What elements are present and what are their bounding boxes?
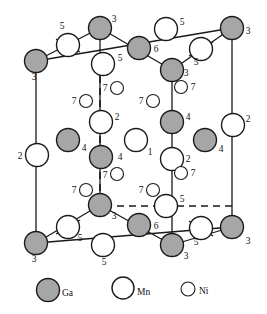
label-ni-7-e: 7 (103, 170, 108, 180)
atom-ga-4-rightin (161, 111, 184, 134)
label-mn-top-edge-5-left: 5 (60, 21, 65, 31)
label-ga-top-face-6: 6 (154, 44, 159, 54)
legend-ni-label: Ni (199, 286, 209, 296)
label-ni-7-c: 7 (139, 96, 144, 106)
label-mn-top-edge-5-right: 5 (194, 57, 199, 67)
label-mn-bot-5-right: 5 (194, 237, 199, 247)
atom-ga-4-center (90, 146, 113, 169)
atom-ni-7-f (80, 184, 93, 197)
legend-mn-swatch (112, 277, 134, 299)
label-ga-bot-front-right: 3 (184, 251, 189, 261)
atom-ga-bot-back-left (25, 232, 48, 255)
atom-ga-top-back-right (221, 17, 244, 40)
atom-ga-top-face-6 (128, 37, 151, 60)
atom-ga-top-front-right (161, 59, 184, 82)
atom-mn-2-left (26, 144, 49, 167)
atom-mn-1-center (125, 129, 148, 152)
atom-ga-bot-front-right (161, 234, 184, 257)
atom-ga-bot-front-left (89, 194, 112, 217)
atom-mn-bot-5-front (92, 234, 115, 257)
legend-ga-label: Ga (62, 288, 74, 298)
label-ni-7-b: 7 (72, 96, 77, 106)
unit-cell-svg: 33336555577772222444417777333365555 GaMn… (0, 0, 267, 314)
label-mn-2-center: 2 (115, 112, 120, 122)
legend-ni-swatch (181, 282, 195, 296)
label-ni-7-a: 7 (103, 83, 108, 93)
atom-ga-bot-back-right (221, 216, 244, 239)
atom-mn-2-center (90, 111, 113, 134)
atom-ga-bot-face-6 (128, 214, 151, 237)
crystal-structure-figure: 33336555577772222444417777333365555 GaMn… (0, 0, 267, 314)
label-ga-top-front-left: 3 (112, 14, 117, 24)
atom-ni-7-d (175, 81, 188, 94)
label-ga-4-left: 4 (82, 143, 87, 153)
atom-ga-top-front-left (89, 17, 112, 40)
label-mn-2-front: 2 (186, 154, 191, 164)
label-ga-top-front-right: 3 (184, 68, 189, 78)
atom-ni-7-h (175, 167, 188, 180)
label-ga-4-center: 4 (118, 152, 123, 162)
atom-mn-2-right (222, 114, 245, 137)
label-ga-bot-back-left: 3 (32, 254, 37, 264)
atom-ga-4-left (57, 129, 80, 152)
atom-ga-top-back-left (25, 50, 48, 73)
legend-mn-label: Mn (137, 287, 150, 297)
label-mn-2-left: 2 (18, 151, 23, 161)
label-ga-4-rightin: 4 (186, 112, 191, 122)
atom-ni-7-c (147, 95, 160, 108)
label-mn-top-edge-5-back: 5 (180, 17, 185, 27)
label-ga-4-right: 4 (219, 144, 224, 154)
label-mn-top-edge-5-mid: 5 (118, 53, 123, 63)
label-mn-bot-5-mid: 5 (180, 194, 185, 204)
label-ga-top-back-right: 3 (246, 26, 251, 36)
label-ga-bot-face-6: 6 (154, 221, 159, 231)
label-mn-1-center: 1 (148, 147, 153, 157)
label-ga-top-back-left: 3 (32, 72, 37, 82)
label-ni-7-f: 7 (72, 185, 77, 195)
atom-mn-top-edge-5-back (155, 18, 178, 41)
label-ni-7-h: 7 (191, 168, 196, 178)
atom-mn-top-edge-5-mid (92, 53, 115, 76)
label-ni-7-d: 7 (191, 82, 196, 92)
atom-ga-4-right (194, 129, 217, 152)
atom-mn-bot-5-left (57, 216, 80, 239)
atom-ni-7-g (147, 184, 160, 197)
atom-ni-7-e (111, 168, 124, 181)
label-mn-bot-5-left: 5 (78, 233, 83, 243)
atom-mn-top-edge-5-left (57, 34, 80, 57)
label-ga-bot-back-right: 3 (246, 236, 251, 246)
label-ni-7-g: 7 (139, 185, 144, 195)
label-mn-2-right: 2 (246, 114, 251, 124)
atom-ni-7-b (80, 95, 93, 108)
atom-mn-bot-5-mid (155, 195, 178, 218)
legend-ga-swatch (37, 279, 60, 302)
label-mn-bot-5-front: 5 (102, 257, 107, 267)
label-ga-bot-front-left: 3 (112, 211, 117, 221)
atom-ni-7-a (111, 82, 124, 95)
